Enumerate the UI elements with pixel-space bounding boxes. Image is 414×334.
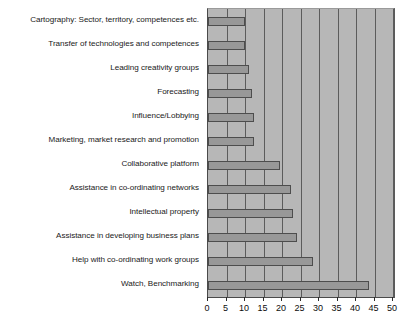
- bar-slot: [208, 177, 393, 201]
- axis-tick: [392, 297, 393, 301]
- plot-area: [207, 8, 395, 298]
- bar-slot: [208, 57, 393, 81]
- axis-tick-label: 35: [331, 303, 341, 313]
- bar-slot: [208, 33, 393, 57]
- axis-tick-label: 45: [368, 303, 378, 313]
- bar: [208, 41, 245, 50]
- bar-slot: [208, 249, 393, 273]
- category-label: Help with co-ordinating work groups: [0, 248, 204, 272]
- category-label: Leading creativity groups: [0, 56, 204, 80]
- axis-tick: [244, 297, 245, 301]
- bar: [208, 161, 280, 170]
- axis-tick-label: 0: [204, 303, 209, 313]
- axis-tick-label: 30: [313, 303, 323, 313]
- category-label: Influence/Lobbying: [0, 104, 204, 128]
- bar: [208, 113, 254, 122]
- axis-tick: [226, 297, 227, 301]
- axis-tick: [263, 297, 264, 301]
- bar: [208, 281, 369, 290]
- category-label: Forecasting: [0, 80, 204, 104]
- axis-tick-label: 20: [276, 303, 286, 313]
- category-label: Cartography: Sector, territory, competen…: [0, 8, 204, 32]
- bar-slot: [208, 9, 393, 33]
- bar: [208, 257, 313, 266]
- bar-series: [208, 9, 393, 297]
- axis-tick: [300, 297, 301, 301]
- axis-tick-label: 40: [350, 303, 360, 313]
- value-axis: 05101520253035404550: [207, 297, 392, 327]
- axis-tick-label: 50: [387, 303, 397, 313]
- axis-tick: [281, 297, 282, 301]
- category-label: Transfer of technologies and competences: [0, 32, 204, 56]
- axis-tick-label: 25: [294, 303, 304, 313]
- bar-slot: [208, 201, 393, 225]
- bar: [208, 65, 249, 74]
- bar-slot: [208, 105, 393, 129]
- axis-tick: [337, 297, 338, 301]
- gridline: [393, 9, 394, 297]
- category-label: Assistance in co-ordinating networks: [0, 176, 204, 200]
- bar: [208, 137, 254, 146]
- bar: [208, 209, 293, 218]
- axis-tick: [355, 297, 356, 301]
- bar-slot: [208, 225, 393, 249]
- axis-tick: [374, 297, 375, 301]
- category-label: Marketing, market research and promotion: [0, 128, 204, 152]
- bar: [208, 89, 252, 98]
- axis-tick: [207, 297, 208, 301]
- bar: [208, 17, 245, 26]
- category-axis-labels: Cartography: Sector, territory, competen…: [0, 8, 204, 296]
- axis-tick-label: 15: [257, 303, 267, 313]
- axis-tick-label: 10: [239, 303, 249, 313]
- bar-slot: [208, 129, 393, 153]
- axis-tick-label: 5: [223, 303, 228, 313]
- bar: [208, 185, 291, 194]
- bar-slot: [208, 81, 393, 105]
- bar-slot: [208, 153, 393, 177]
- bar-slot: [208, 273, 393, 297]
- bar-chart: Cartography: Sector, territory, competen…: [0, 0, 414, 334]
- category-label: Intellectual property: [0, 200, 204, 224]
- bar: [208, 233, 297, 242]
- category-label: Watch, Benchmarking: [0, 272, 204, 296]
- category-label: Assistance in developing business plans: [0, 224, 204, 248]
- category-label: Collaborative platform: [0, 152, 204, 176]
- axis-tick: [318, 297, 319, 301]
